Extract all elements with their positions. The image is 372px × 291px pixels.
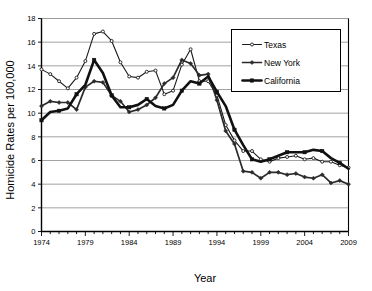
data-point <box>58 80 61 83</box>
data-point <box>40 119 43 122</box>
data-point <box>180 89 183 92</box>
data-point <box>136 76 139 79</box>
data-point <box>242 150 245 153</box>
y-axis-title: Homicide Rates per 100,000 <box>4 60 16 199</box>
data-point <box>128 106 131 109</box>
data-point <box>49 73 52 76</box>
data-point <box>145 97 148 100</box>
data-point <box>66 87 69 90</box>
data-point <box>110 94 113 97</box>
data-point <box>101 30 104 33</box>
x-tick-label: 1994 <box>209 238 226 247</box>
data-point <box>276 170 280 174</box>
data-point <box>286 155 289 158</box>
x-tick-label: 1999 <box>252 238 269 247</box>
legend-marker <box>251 43 254 46</box>
data-point <box>110 39 113 42</box>
y-tick-label: 8 <box>31 133 35 142</box>
data-point <box>128 75 131 78</box>
data-point <box>215 90 218 93</box>
y-tick-label: 10 <box>27 109 35 118</box>
legend-label-california: California <box>264 76 300 86</box>
data-point <box>320 149 323 152</box>
data-point <box>303 151 306 154</box>
data-point <box>329 160 332 163</box>
data-point <box>250 158 253 161</box>
data-point <box>241 169 245 173</box>
legend-label-texas: Texas <box>264 40 286 50</box>
data-point <box>92 58 95 61</box>
data-point <box>57 109 60 112</box>
y-tick-label: 6 <box>31 156 35 165</box>
data-point <box>268 158 271 161</box>
data-point <box>303 158 306 161</box>
data-point <box>294 154 297 157</box>
x-tick-label: 1984 <box>121 238 138 247</box>
chart-legend: TexasNew YorkCalifornia <box>232 30 341 92</box>
data-point <box>312 157 315 160</box>
legend-label-new-york: New York <box>264 58 301 68</box>
data-point <box>154 69 157 72</box>
data-point <box>285 151 288 154</box>
data-point <box>119 61 122 64</box>
data-point <box>198 82 201 85</box>
x-axis-ticks: 19741979198419891994199920042009 <box>33 232 357 248</box>
data-point <box>172 89 175 92</box>
data-point <box>57 101 61 105</box>
y-tick-label: 18 <box>27 14 35 23</box>
data-point <box>189 48 192 51</box>
x-tick-label: 1989 <box>165 238 182 247</box>
homicide-rates-line-chart: 024681012141618 197419791984198919941999… <box>0 0 372 291</box>
chart-canvas: 024681012141618 197419791984198919941999… <box>0 0 372 291</box>
y-tick-label: 0 <box>31 227 35 236</box>
data-point <box>84 60 87 63</box>
data-point <box>75 76 78 79</box>
x-tick-label: 1974 <box>33 238 50 247</box>
y-tick-label: 16 <box>27 38 35 47</box>
data-point <box>75 93 78 96</box>
data-point <box>145 70 148 73</box>
y-tick-label: 14 <box>27 62 35 71</box>
data-point <box>285 173 289 177</box>
data-point <box>93 32 96 35</box>
data-point <box>40 68 43 71</box>
x-tick-label: 1979 <box>77 238 94 247</box>
y-tick-label: 4 <box>31 180 35 189</box>
data-point <box>233 128 236 131</box>
data-point <box>251 150 254 153</box>
x-tick-label: 2009 <box>340 238 357 247</box>
data-point <box>338 161 341 164</box>
data-point <box>163 107 166 110</box>
y-tick-label: 12 <box>27 85 35 94</box>
y-tick-label: 2 <box>31 204 35 213</box>
y-axis-ticks: 024681012141618 <box>27 14 41 236</box>
x-tick-label: 2004 <box>296 238 313 247</box>
x-axis-title: Year <box>194 272 217 284</box>
data-point <box>321 160 324 163</box>
data-point <box>163 93 166 96</box>
legend-marker <box>250 79 253 82</box>
